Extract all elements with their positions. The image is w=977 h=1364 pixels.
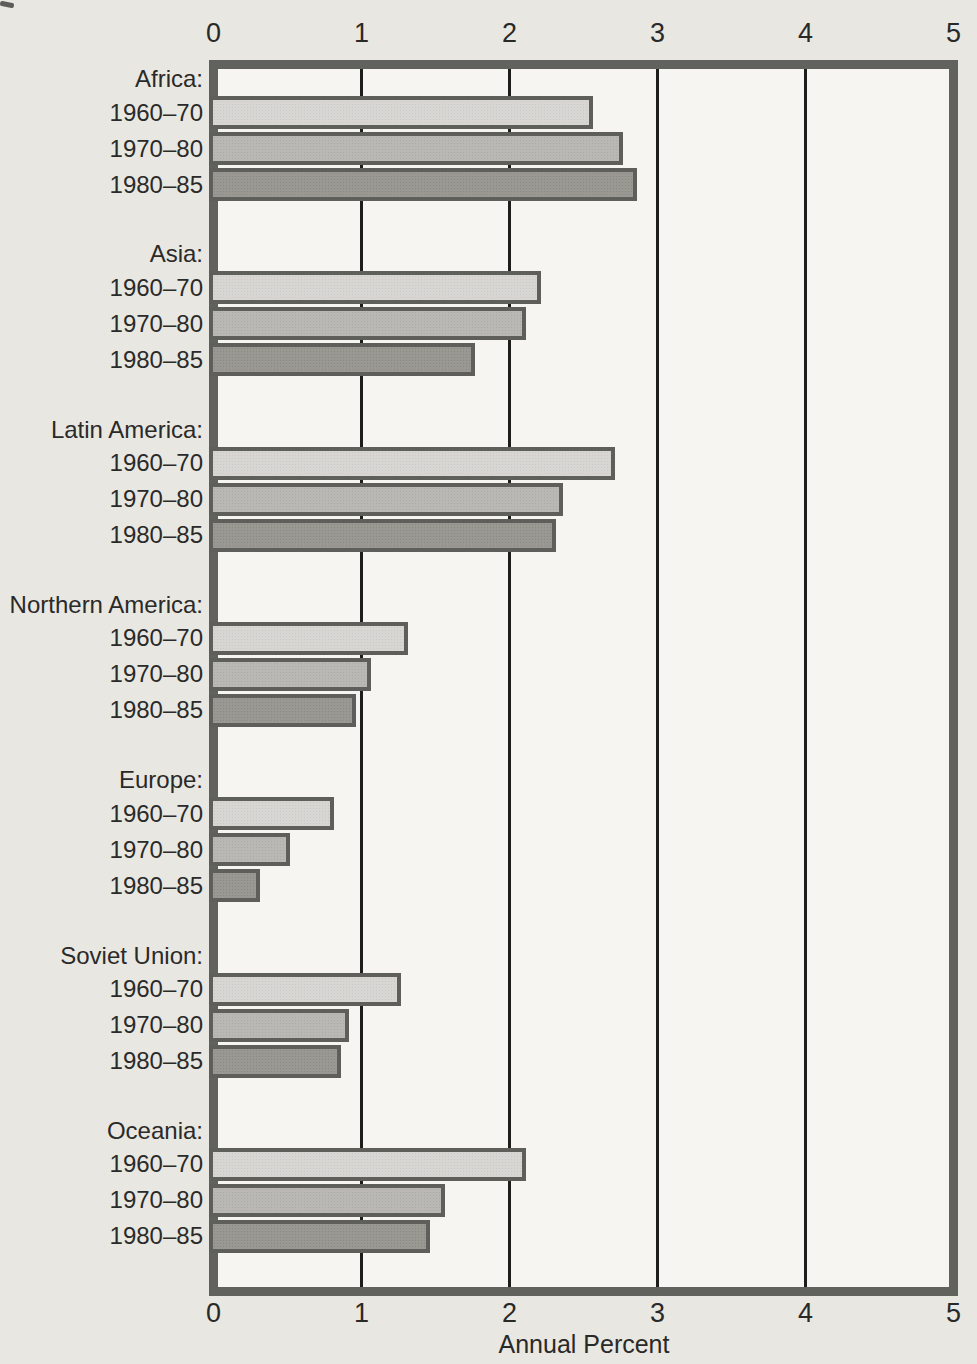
top-axis-tick-label-5: 5 <box>924 18 977 48</box>
bar-europe-1960-70 <box>209 797 334 830</box>
period-label-africa-1960-70: 1960–70 <box>110 98 203 128</box>
bar-asia-1980-85 <box>209 343 475 376</box>
period-label-europe-1980-85: 1980–85 <box>110 871 203 901</box>
bottom-axis-tick-label-1: 1 <box>332 1298 392 1328</box>
bar-oceania-1970-80 <box>209 1184 445 1217</box>
bar-europe-1980-85 <box>209 869 260 902</box>
bar-oceania-1960-70 <box>209 1148 526 1181</box>
top-axis-tick-label-3: 3 <box>628 18 688 48</box>
group-label-asia: Asia: <box>150 239 203 269</box>
bottom-axis-tick-label-2: 2 <box>480 1298 540 1328</box>
scanned-chart-page: 012345 Africa:1960–701970–801980–85Asia:… <box>0 0 977 1364</box>
bar-asia-1970-80 <box>209 307 526 340</box>
group-label-latin-america: Latin America: <box>51 415 203 445</box>
bar-africa-1970-80 <box>209 132 623 165</box>
period-label-soviet-union-1960-70: 1960–70 <box>110 974 203 1004</box>
group-label-oceania: Oceania: <box>107 1116 203 1146</box>
bar-soviet-union-1960-70 <box>209 973 401 1006</box>
top-axis-tick-label-2: 2 <box>480 18 540 48</box>
top-axis-tick-label-1: 1 <box>332 18 392 48</box>
period-label-latin-america-1960-70: 1960–70 <box>110 448 203 478</box>
period-label-northern-america-1970-80: 1970–80 <box>110 659 203 689</box>
gridline-4 <box>804 69 807 1287</box>
period-label-europe-1970-80: 1970–80 <box>110 835 203 865</box>
top-axis-tick-label-0: 0 <box>184 18 244 48</box>
bar-africa-1980-85 <box>209 168 637 201</box>
bar-soviet-union-1980-85 <box>209 1045 341 1078</box>
bottom-axis-tick-label-4: 4 <box>776 1298 836 1328</box>
period-label-oceania-1960-70: 1960–70 <box>110 1149 203 1179</box>
top-axis-tick-label-4: 4 <box>776 18 836 48</box>
bar-europe-1970-80 <box>209 833 290 866</box>
period-label-asia-1980-85: 1980–85 <box>110 345 203 375</box>
gridline-3 <box>656 69 659 1287</box>
bar-soviet-union-1970-80 <box>209 1009 349 1042</box>
bottom-axis-tick-label-3: 3 <box>628 1298 688 1328</box>
period-label-soviet-union-1970-80: 1970–80 <box>110 1010 203 1040</box>
group-label-soviet-union: Soviet Union: <box>60 941 203 971</box>
bar-asia-1960-70 <box>209 271 541 304</box>
bar-northern-america-1970-80 <box>209 658 371 691</box>
gridline-2 <box>508 69 511 1287</box>
bar-africa-1960-70 <box>209 96 593 129</box>
group-label-europe: Europe: <box>119 765 203 795</box>
period-label-asia-1970-80: 1970–80 <box>110 309 203 339</box>
bar-oceania-1980-85 <box>209 1220 430 1253</box>
bar-northern-america-1980-85 <box>209 694 356 727</box>
group-label-africa: Africa: <box>135 64 203 94</box>
period-label-asia-1960-70: 1960–70 <box>110 273 203 303</box>
period-label-europe-1960-70: 1960–70 <box>110 799 203 829</box>
period-label-latin-america-1980-85: 1980–85 <box>110 520 203 550</box>
period-label-oceania-1980-85: 1980–85 <box>110 1221 203 1251</box>
period-label-africa-1970-80: 1970–80 <box>110 134 203 164</box>
bar-northern-america-1960-70 <box>209 622 408 655</box>
bottom-axis-tick-label-5: 5 <box>924 1298 977 1328</box>
scan-artifact <box>0 1 14 9</box>
period-label-africa-1980-85: 1980–85 <box>110 170 203 200</box>
period-label-northern-america-1960-70: 1960–70 <box>110 623 203 653</box>
period-label-northern-america-1980-85: 1980–85 <box>110 695 203 725</box>
bar-latin-america-1980-85 <box>209 519 556 552</box>
bar-latin-america-1960-70 <box>209 447 615 480</box>
bottom-axis-tick-label-0: 0 <box>184 1298 244 1328</box>
period-label-oceania-1970-80: 1970–80 <box>110 1185 203 1215</box>
period-label-latin-america-1970-80: 1970–80 <box>110 484 203 514</box>
group-label-northern-america: Northern America: <box>10 590 203 620</box>
bar-latin-america-1970-80 <box>209 483 563 516</box>
x-axis-title: Annual Percent <box>214 1330 954 1359</box>
period-label-soviet-union-1980-85: 1980–85 <box>110 1046 203 1076</box>
